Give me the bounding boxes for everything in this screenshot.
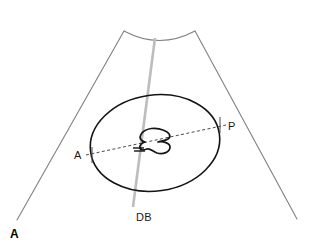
directional-beam-label: DB [136,212,152,223]
figure-background [0,0,319,246]
posterior-label: P [228,121,236,132]
panel-letter-label: A [10,228,19,240]
figure-canvas [0,0,319,246]
anterior-label: A [74,150,82,161]
ultrasound-schematic-figure: A P DB A [0,0,319,246]
